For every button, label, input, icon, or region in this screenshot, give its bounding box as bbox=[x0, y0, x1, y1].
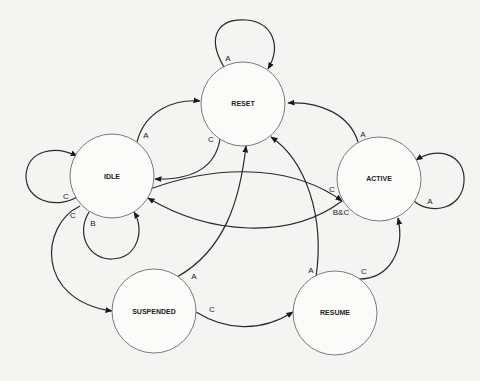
edge-resume-reset-a bbox=[271, 137, 318, 277]
edge-label-reset-idle: C bbox=[208, 135, 214, 144]
state-reset: RESET bbox=[201, 62, 285, 146]
edge-label-reset-self: A bbox=[225, 54, 231, 63]
edge-label-idle-self-b: B bbox=[90, 219, 95, 228]
state-label-reset: RESET bbox=[231, 100, 255, 107]
edge-label-suspended-resume: C bbox=[209, 305, 215, 314]
edge-label-active-idle: B&C bbox=[333, 208, 350, 217]
state-idle: IDLE bbox=[70, 134, 154, 218]
state-label-active: ACTIVE bbox=[366, 175, 392, 182]
edge-reset-idle-c bbox=[155, 139, 220, 179]
edge-active-reset-a bbox=[288, 103, 358, 142]
edge-label-idle-suspended: C bbox=[70, 211, 76, 220]
edge-label-idle-self-c: C bbox=[63, 192, 69, 201]
state-resume: RESUME bbox=[293, 271, 377, 355]
state-label-idle: IDLE bbox=[104, 173, 120, 180]
state-suspended: SUSPENDED bbox=[112, 269, 196, 353]
edge-label-resume-reset: A bbox=[308, 266, 314, 275]
edge-idle-active-c bbox=[150, 172, 342, 201]
edge-label-active-self: A bbox=[427, 197, 433, 206]
edge-label-resume-active: C bbox=[361, 267, 367, 276]
edge-suspended-resume-c bbox=[196, 312, 293, 327]
state-label-resume: RESUME bbox=[320, 309, 350, 316]
state-label-suspended: SUSPENDED bbox=[132, 308, 176, 315]
edge-label-idle-active: C bbox=[329, 185, 335, 194]
edge-label-suspended-reset: A bbox=[191, 272, 197, 281]
edge-idle-self-c bbox=[26, 150, 77, 202]
edge-active-self-a bbox=[414, 153, 464, 208]
state-diagram: A A C A A C B C A A C C bbox=[0, 0, 480, 381]
edge-label-idle-reset: A bbox=[143, 131, 149, 140]
edge-suspended-reset-a bbox=[177, 146, 246, 277]
state-active: ACTIVE bbox=[337, 137, 421, 221]
edge-label-active-reset: A bbox=[360, 130, 366, 139]
